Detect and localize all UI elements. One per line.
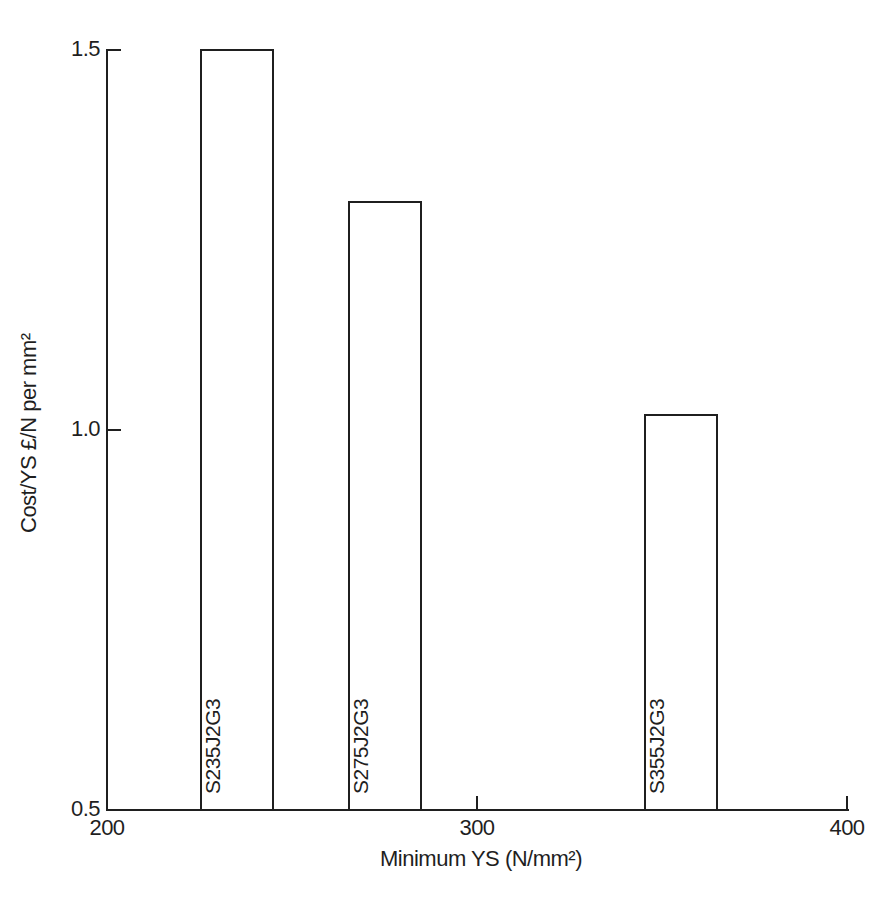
y-tick-label: 1.0	[0, 416, 100, 442]
y-tick-mark	[108, 429, 121, 431]
bar	[200, 49, 274, 811]
y-tick-label: 1.5	[0, 36, 100, 62]
y-tick-label: 0.5	[0, 796, 100, 822]
x-tick-mark	[846, 796, 848, 810]
x-tick-label: 300	[459, 815, 494, 841]
x-tick-label: 400	[829, 815, 864, 841]
bar-label: S235J2G3	[201, 699, 225, 794]
x-tick-mark	[106, 796, 108, 810]
y-tick-mark	[108, 809, 121, 811]
bar-label: S275J2G3	[349, 699, 373, 794]
y-tick-mark	[108, 49, 121, 51]
cost-vs-yield-strength-bar-chart: 1.51.00.5200300400 S235J2G3S275J2G3S355J…	[0, 0, 895, 905]
bar-label: S355J2G3	[645, 699, 669, 794]
x-axis-title: Minimum YS (N/mm²)	[380, 846, 582, 872]
y-axis-title: Cost/YS £/N per mm²	[16, 333, 42, 533]
x-tick-label: 200	[89, 815, 124, 841]
x-tick-mark	[476, 796, 478, 810]
